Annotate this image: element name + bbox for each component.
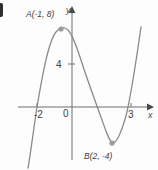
x-tick-label-0: 0 bbox=[63, 109, 69, 119]
x-tick-label-3: 3 bbox=[128, 110, 134, 120]
plot-canvas bbox=[0, 0, 158, 170]
point-marker-B bbox=[109, 140, 114, 145]
y-tick-label-4: 4 bbox=[56, 60, 62, 70]
y-axis-label: y bbox=[66, 6, 71, 15]
x-tick-label-neg2: -2 bbox=[34, 110, 43, 120]
cubic-graph-figure: A(-1, 8) B(2, -4) -2 0 3 4 x y bbox=[0, 0, 158, 170]
point-marker-A bbox=[58, 26, 63, 31]
point-label-a: A(-1, 8) bbox=[26, 10, 54, 19]
cubic-curve bbox=[28, 27, 141, 168]
point-label-b: B(2, -4) bbox=[84, 152, 112, 161]
x-axis-label: x bbox=[148, 111, 153, 120]
